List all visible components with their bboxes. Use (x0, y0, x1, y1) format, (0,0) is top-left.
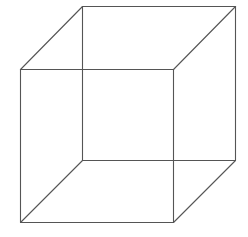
cube-edge (21, 161, 83, 223)
cube-edge (21, 7, 83, 70)
cube-edge (174, 7, 236, 70)
cube-edge (174, 161, 236, 223)
wireframe-cube (0, 0, 248, 237)
